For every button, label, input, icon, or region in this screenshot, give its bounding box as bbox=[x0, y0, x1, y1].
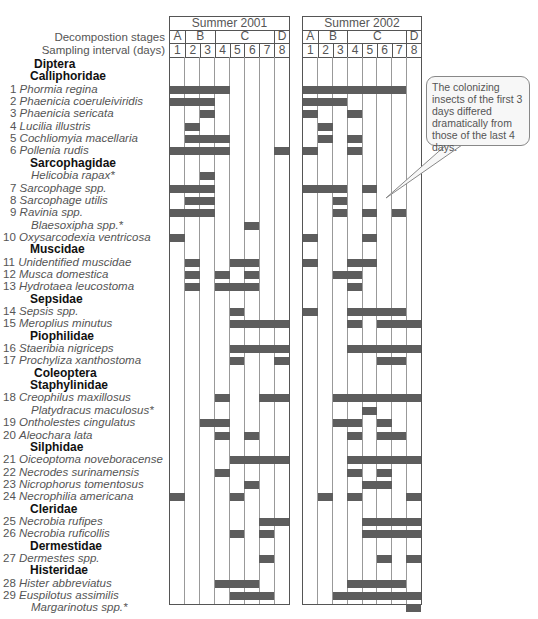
annotation-callout: The colonizing insects of the first 3 da… bbox=[426, 76, 530, 146]
